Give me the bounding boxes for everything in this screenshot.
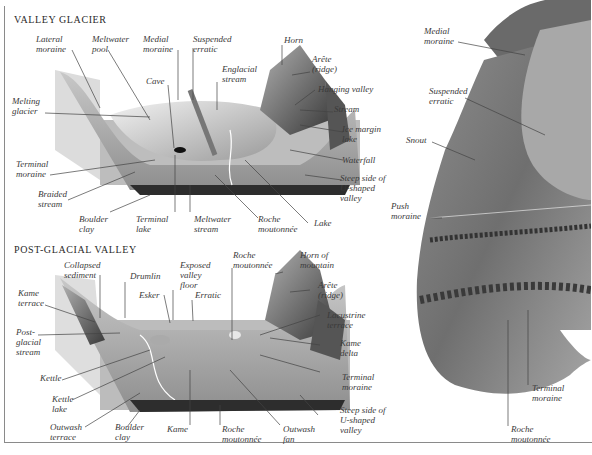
label-collapsed-sediment: Collapsed sediment [64,260,101,280]
label-lake: Lake [314,218,332,228]
label-suspended-erratic: Suspended erratic [193,34,232,54]
label-drumlin: Drumlin [130,271,161,281]
label-kettle-lake: Kettle lake [52,394,74,414]
label-hanging-valley: Hanging valley [318,84,373,94]
label-horn-of-mountain: Horn of mountain [300,250,334,270]
label-photo-roche-moutonnee: Roche moutonnée [511,424,551,444]
post-glacial-valley-title: POST-GLACIAL VALLEY [14,244,137,255]
label-roche-moutonnee: Roche moutonnée [258,214,298,234]
label-terminal-lake: Terminal lake [136,214,168,234]
label-waterfall: Waterfall [342,155,375,165]
label-post-glacial-stream: Post- glacial stream [16,327,41,357]
label-photo-medial-moraine: Medial moraine [424,26,454,46]
label-meltwater-stream: Meltwater stream [194,214,231,234]
label-arete-post: Arête (ridge) [318,280,343,300]
label-boulder-clay-post: Boulder clay [115,422,144,442]
glacier-photo-illustration [417,0,591,394]
label-meltwater-pool: Meltwater pool [92,34,129,54]
label-lateral-moraine: Lateral moraine [36,34,66,54]
label-esker: Esker [139,290,160,300]
label-photo-suspended-erratic: Suspended erratic [429,86,468,106]
label-cave: Cave [146,76,165,86]
label-kettle: Kettle [40,373,62,383]
label-steep-side-post: Steep side of U-shaped valley [340,405,386,435]
label-kame-delta: Kame delta [340,338,361,358]
label-ice-margin-lake: Ice margin lake [342,124,381,144]
label-kame-terrace: Kame terrace [18,288,44,308]
label-kame: Kame [167,424,188,434]
label-exposed-valley-floor: Exposed valley floor [180,260,211,290]
label-photo-snout: Snout [406,135,427,145]
label-terminal-moraine: Terminal moraine [16,159,48,179]
label-braided-stream: Braided stream [38,189,67,209]
label-stream: Stream [334,104,359,114]
label-roche-moutonnee-top: Roche moutonnée [233,250,273,270]
label-horn: Horn [284,35,303,45]
label-photo-terminal-moraine: Terminal moraine [532,383,564,403]
label-photo-push-moraine: Push moraine [391,201,421,221]
label-outwash-terrace: Outwash terrace [50,422,82,442]
label-outwash-fan: Outwash fan [283,424,315,444]
label-arete: Arête (ridge) [312,54,337,74]
label-medial-moraine: Medial moraine [143,34,173,54]
label-englacial-stream: Englacial stream [222,64,257,84]
label-lacustrine-terrace: Lacustrine terrace [327,310,366,330]
label-terminal-moraine-post: Terminal moraine [342,372,374,392]
valley-glacier-title: VALLEY GLACIER [14,14,107,25]
label-roche-moutonnee-bottom: Roche moutonnée [222,424,262,444]
label-erratic: Erratic [195,290,221,300]
label-steep-side: Steep side of U-shaped valley [340,173,386,203]
label-boulder-clay: Boulder clay [79,214,108,234]
label-melting-glacier: Melting glacier [12,96,40,116]
